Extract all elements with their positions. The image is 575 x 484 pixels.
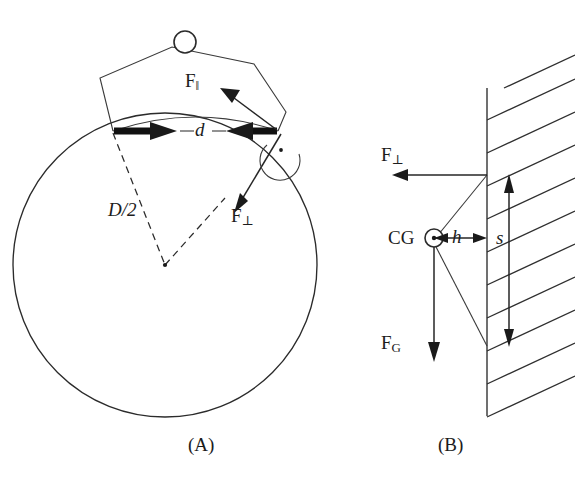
panel-a-graphics — [13, 31, 317, 417]
label-f-perp-b: F⊥ — [381, 145, 404, 166]
label-f-perp-sub: ⊥ — [242, 213, 254, 228]
vector-f-perpendicular — [234, 134, 281, 213]
panel-b-graphics — [392, 55, 575, 417]
dimension-s — [504, 174, 514, 347]
figure-root: F‖ F⊥ d D/2 (A) F⊥ CG h s FG (B) — [0, 0, 575, 484]
label-f-parallel-base: F — [185, 70, 196, 91]
label-f-perpendicular: F⊥ — [231, 206, 254, 227]
vector-f-gravity — [428, 243, 440, 362]
label-s: s — [496, 228, 503, 247]
label-d: d — [195, 120, 205, 139]
sphere-center-dot — [163, 263, 167, 267]
label-f-perp-b-base: F — [381, 144, 392, 165]
label-cg: CG — [388, 228, 414, 247]
figure-canvas — [0, 0, 575, 484]
right-angle-dot — [279, 148, 283, 152]
pivot-circle — [174, 31, 196, 53]
label-f-gravity: FG — [381, 333, 401, 354]
label-d-over-2: D/2 — [108, 200, 137, 219]
label-f-parallel: F‖ — [185, 71, 199, 92]
force-triangle — [434, 175, 487, 346]
caption-panel-a: (A) — [188, 435, 214, 454]
label-f-gravity-sub: G — [392, 340, 401, 355]
label-f-perp-b-sub: ⊥ — [392, 152, 404, 167]
label-f-parallel-sub: ‖ — [196, 78, 200, 93]
label-h: h — [452, 227, 462, 246]
label-f-perp-base: F — [231, 205, 242, 226]
vector-d-left — [114, 122, 177, 140]
label-f-gravity-base: F — [381, 332, 392, 353]
radius-line-right — [165, 198, 225, 265]
vector-f-perp-b — [392, 169, 487, 181]
caption-panel-b: (B) — [438, 435, 463, 454]
